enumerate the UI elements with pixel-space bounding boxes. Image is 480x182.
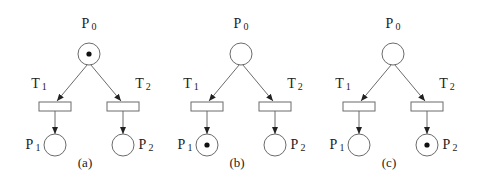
panel-caption: (a): [78, 155, 92, 170]
token-dot: [86, 51, 91, 56]
transition-label-t1: T1: [335, 76, 351, 92]
place-label-p0: P0: [234, 16, 249, 32]
place-p1: [44, 134, 66, 156]
place-label-p2: P2: [443, 137, 458, 153]
place-p0: [382, 43, 404, 65]
arc-p0-t1: [209, 65, 239, 101]
transition-label-t1: T1: [31, 76, 47, 92]
token-dot: [204, 142, 209, 147]
transition-label-t1: T1: [183, 76, 199, 92]
transition-t2: [107, 102, 139, 111]
arc-p0-t1: [57, 65, 87, 101]
place-p0: [230, 43, 252, 65]
petri-net-figure: P0T1T2P1P2(a)P0T1T2P1P2(b)P0T1T2P1P2(c): [0, 0, 480, 182]
petri-panel-c: P0T1T2P1P2(c): [330, 16, 458, 170]
transition-label-t2: T2: [135, 76, 151, 92]
transition-label-t2: T2: [287, 76, 303, 92]
panel-caption: (c): [382, 155, 396, 170]
place-p2: [264, 134, 286, 156]
place-label-p1: P1: [26, 137, 41, 153]
transition-t1: [343, 102, 375, 111]
arc-p0-t1: [361, 65, 391, 101]
place-label-p1: P1: [178, 137, 193, 153]
arc-p0-t2: [395, 65, 425, 101]
petri-panel-b: P0T1T2P1P2(b): [178, 16, 306, 170]
place-label-p0: P0: [82, 16, 97, 32]
place-label-p1: P1: [330, 137, 345, 153]
arc-p0-t2: [91, 65, 121, 101]
token-dot: [424, 142, 429, 147]
transition-t2: [259, 102, 291, 111]
place-label-p2: P2: [291, 137, 306, 153]
transition-t1: [39, 102, 71, 111]
panel-caption: (b): [229, 155, 244, 170]
place-p1: [348, 134, 370, 156]
transition-label-t2: T2: [439, 76, 455, 92]
place-p2: [112, 134, 134, 156]
place-label-p2: P2: [139, 137, 154, 153]
transition-t2: [411, 102, 443, 111]
place-label-p0: P0: [386, 16, 401, 32]
arc-p0-t2: [243, 65, 273, 101]
petri-panel-a: P0T1T2P1P2(a): [26, 16, 154, 170]
transition-t1: [191, 102, 223, 111]
